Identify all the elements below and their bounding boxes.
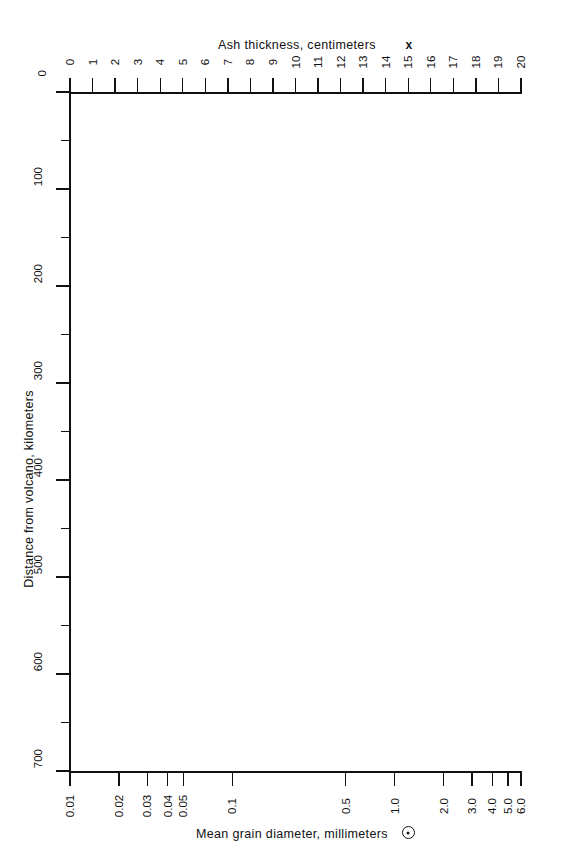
top-tick: [69, 78, 70, 92]
top-tick-label: 0: [64, 48, 76, 76]
left-tick-label: 200: [32, 264, 44, 304]
left-tick-label: 400: [32, 458, 44, 498]
top-tick: [160, 78, 161, 92]
bottom-tick: [232, 773, 233, 786]
top-tick: [137, 78, 138, 92]
top-tick-label: 19: [492, 48, 504, 76]
top-tick: [250, 78, 251, 92]
top-tick: [520, 78, 521, 92]
bottom-tick-label: 0.05: [177, 788, 189, 824]
bottom-tick: [147, 773, 148, 786]
top-tick-label: 5: [177, 48, 189, 76]
bottom-tick-label: 0.1: [226, 788, 238, 824]
bottom-tick-label: 2.0: [438, 788, 450, 824]
top-tick: [362, 78, 363, 92]
bottom-tick: [443, 773, 444, 786]
left-major-tick: [56, 382, 70, 383]
bottom-tick: [345, 773, 346, 786]
top-tick-label: 7: [222, 48, 234, 76]
top-tick-label: 20: [515, 48, 527, 76]
left-major-tick: [56, 673, 70, 674]
top-tick: [408, 78, 409, 92]
left-tick-label: 700: [32, 749, 44, 789]
left-minor-tick: [61, 140, 70, 141]
left-tick-label: 500: [32, 555, 44, 595]
top-tick: [498, 78, 499, 92]
top-tick: [430, 78, 431, 92]
top-tick-label: 2: [109, 48, 121, 76]
bottom-axis-title: Mean grain diameter, millimeters: [196, 826, 415, 841]
top-tick-label: 4: [154, 48, 166, 76]
top-tick-label: 3: [132, 48, 144, 76]
left-minor-tick: [61, 237, 70, 238]
top-tick-label: 17: [447, 48, 459, 76]
top-tick-label: 8: [244, 48, 256, 76]
bottom-tick-label: 5.0: [502, 788, 514, 824]
left-tick-label: 0: [36, 70, 48, 110]
top-tick: [182, 78, 183, 92]
left-tick-label: 600: [32, 652, 44, 692]
left-major-tick: [56, 576, 70, 577]
bottom-tick-label: 0.04: [162, 788, 174, 824]
bottom-tick-label: 0.01: [64, 788, 76, 824]
top-tick: [205, 78, 206, 92]
bottom-tick: [118, 773, 119, 786]
bottom-tick: [492, 773, 493, 786]
bottom-tick-label: 3.0: [466, 788, 478, 824]
top-tick-label: 14: [380, 48, 392, 76]
bottom-tick-label: 0.02: [113, 788, 125, 824]
top-tick-label: 11: [312, 48, 324, 76]
top-tick: [114, 78, 115, 92]
left-minor-tick: [61, 722, 70, 723]
top-tick: [92, 78, 93, 92]
bottom-axis-line: [70, 771, 522, 773]
bottom-tick-label: 4.0: [486, 788, 498, 824]
top-tick: [227, 78, 228, 92]
left-major-tick: [56, 479, 70, 480]
bottom-tick: [167, 773, 168, 786]
top-tick-label: 1: [87, 48, 99, 76]
top-tick: [340, 78, 341, 92]
top-tick: [317, 78, 318, 92]
left-major-tick: [56, 188, 70, 189]
left-minor-tick: [61, 334, 70, 335]
bottom-tick: [69, 773, 70, 786]
top-tick: [385, 78, 386, 92]
top-tick-label: 12: [335, 48, 347, 76]
left-major-tick: [56, 91, 70, 92]
bottom-tick: [507, 773, 508, 786]
top-tick-label: 16: [425, 48, 437, 76]
bottom-axis-title-label: Mean grain diameter, millimeters: [196, 827, 388, 841]
left-minor-tick: [61, 431, 70, 432]
top-tick-label: 6: [199, 48, 211, 76]
left-tick-label: 300: [32, 361, 44, 401]
bottom-tick-label: 0.5: [340, 788, 352, 824]
top-tick-label: 15: [402, 48, 414, 76]
circle-dot-marker-icon: [402, 826, 415, 839]
bottom-tick-label: 6.0: [515, 788, 527, 824]
left-major-tick: [56, 285, 70, 286]
left-tick-label: 100: [32, 167, 44, 207]
plot-area: [71, 94, 522, 771]
top-tick-label: 9: [267, 48, 279, 76]
top-tick: [272, 78, 273, 92]
chart-figure: Ash thickness, centimeters x Mean grain …: [0, 0, 573, 863]
left-minor-tick: [61, 625, 70, 626]
bottom-tick-label: 0.03: [141, 788, 153, 824]
bottom-tick: [520, 773, 521, 786]
left-major-tick: [56, 770, 70, 771]
top-tick-label: 13: [357, 48, 369, 76]
left-minor-tick: [61, 528, 70, 529]
top-tick: [295, 78, 296, 92]
top-tick: [475, 78, 476, 92]
bottom-tick-label: 1.0: [389, 788, 401, 824]
top-tick-label: 10: [290, 48, 302, 76]
bottom-tick: [471, 773, 472, 786]
bottom-tick: [183, 773, 184, 786]
top-tick: [453, 78, 454, 92]
bottom-tick: [394, 773, 395, 786]
top-tick-label: 18: [470, 48, 482, 76]
